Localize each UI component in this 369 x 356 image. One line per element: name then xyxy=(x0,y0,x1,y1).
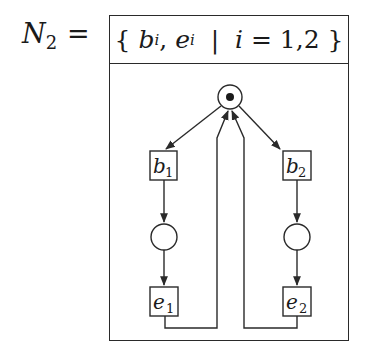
place-p2 xyxy=(284,224,310,250)
arc-p0-b1 xyxy=(166,106,221,149)
arc-p0-b2 xyxy=(239,106,280,149)
label-b2-sub: 2 xyxy=(298,165,306,180)
petri-net-diagram: b 1 b 2 e 1 e 2 xyxy=(0,0,369,356)
place-p1 xyxy=(151,224,177,250)
label-b1: b xyxy=(153,154,166,178)
token-icon xyxy=(226,93,234,101)
label-e2: e xyxy=(286,290,298,314)
label-e1: e xyxy=(153,290,165,314)
label-e2-sub: 2 xyxy=(299,301,307,316)
label-b1-sub: 1 xyxy=(165,165,173,180)
label-e1-sub: 1 xyxy=(166,301,174,316)
label-b2: b xyxy=(286,154,299,178)
